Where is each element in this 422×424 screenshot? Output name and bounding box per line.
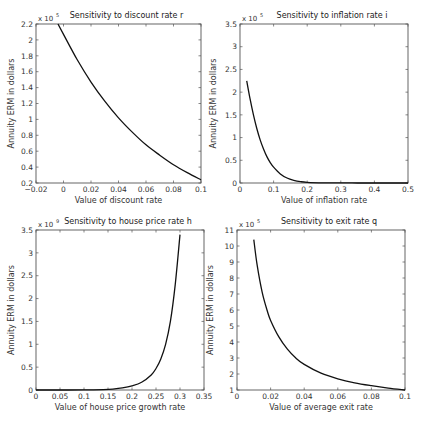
y-tick-label: 6: [229, 306, 234, 315]
x-tick-label: 0.1: [195, 185, 207, 194]
y-tick-label: 0.4: [21, 163, 33, 172]
y-tick-label: 0.8: [21, 131, 33, 140]
plot-title: Sensitivity to discount rate r: [70, 11, 184, 20]
plot-exit-rate: 00.020.040.060.080.11234567891011x 105Se…: [206, 217, 411, 412]
x-tick-label: 0.1: [268, 185, 280, 194]
y-tick-label: 0: [232, 179, 237, 188]
plot-frame: [237, 230, 405, 390]
y-tick-label: 5: [229, 322, 234, 331]
x-tick-label: 0.4: [368, 185, 380, 194]
x-tick-label: 0.04: [296, 392, 313, 401]
y-tick-label: 8: [229, 274, 234, 283]
data-curve: [247, 81, 408, 183]
x-tick-label: 0.25: [148, 392, 165, 401]
y-tick-label: 3: [229, 354, 234, 363]
sensitivity-figure: −0.0200.020.040.060.080.10.20.40.60.811.…: [0, 0, 422, 424]
plot-frame: [240, 24, 408, 183]
plot-frame: [36, 24, 201, 183]
y-exponent-label: x 10: [38, 221, 53, 229]
data-curve: [254, 240, 405, 390]
x-axis-label: Value of average exit rate: [269, 403, 373, 412]
x-tick-label: 0.5: [402, 185, 414, 194]
y-tick-label: 2: [28, 36, 33, 45]
y-tick-label: 1: [229, 386, 234, 395]
y-tick-label: 0.5: [21, 363, 33, 372]
y-tick-label: 3: [232, 42, 237, 51]
plot-title: Sensitivity to exit rate q: [281, 217, 377, 226]
y-tick-label: 0.5: [225, 156, 237, 165]
y-tick-label: 10: [224, 242, 234, 251]
x-axis-label: Value of discount rate: [75, 196, 163, 205]
y-tick-label: 1.6: [21, 67, 33, 76]
x-tick-label: 0: [61, 185, 66, 194]
y-tick-label: 2.5: [225, 65, 237, 74]
y-exponent-label: x 10: [239, 221, 254, 229]
y-tick-label: 1.5: [21, 317, 33, 326]
plot-title: Sensitivity to house price rate h: [64, 217, 192, 226]
y-axis-label: Annuity ERM in dollars: [209, 59, 218, 149]
x-tick-label: 0.04: [110, 185, 127, 194]
y-axis-label: Annuity ERM in dollars: [7, 59, 16, 149]
y-tick-label: 3.5: [225, 20, 237, 29]
y-tick-label: 9: [229, 258, 234, 267]
x-tick-label: 0.06: [138, 185, 155, 194]
plot-inflation-rate: 00.10.20.30.40.500.511.522.533.5x 105Sen…: [209, 11, 414, 205]
x-tick-label: 0.08: [165, 185, 182, 194]
y-axis-label: Annuity ERM in dollars: [7, 265, 16, 355]
x-tick-label: 0.35: [196, 392, 213, 401]
y-exponent-power: 5: [56, 12, 59, 18]
y-tick-label: 3.5: [21, 226, 33, 235]
y-tick-label: 1.5: [225, 111, 237, 120]
y-tick-label: 0: [28, 386, 33, 395]
y-tick-label: 1.2: [21, 99, 33, 108]
y-tick-label: 1.8: [21, 52, 33, 61]
y-tick-label: 2: [232, 88, 237, 97]
x-tick-label: 0.02: [262, 392, 279, 401]
y-tick-label: 7: [229, 290, 234, 299]
x-tick-label: 0.2: [301, 185, 313, 194]
x-axis-label: Value of inflation rate: [281, 196, 367, 205]
y-tick-label: 3: [28, 249, 33, 258]
y-tick-label: 2.2: [21, 20, 33, 29]
x-tick-label: 0.06: [329, 392, 346, 401]
y-exponent-label: x 10: [242, 15, 257, 23]
y-tick-label: 1: [28, 115, 33, 124]
x-tick-label: 0: [34, 392, 39, 401]
x-tick-label: 0.3: [335, 185, 347, 194]
x-tick-label: 0.1: [399, 392, 411, 401]
y-tick-label: 1.4: [21, 83, 33, 92]
x-axis-label: Value of house price growth rate: [55, 403, 186, 412]
y-tick-label: 1: [28, 340, 33, 349]
y-axis-label: Annuity ERM in dollars: [206, 265, 215, 355]
y-exponent-power: 9: [56, 218, 59, 224]
y-tick-label: 2: [28, 294, 33, 303]
data-curve: [58, 24, 201, 180]
y-tick-label: 2: [229, 370, 234, 379]
plot-discount-rate: −0.0200.020.040.060.080.10.20.40.60.811.…: [7, 11, 207, 205]
x-tick-label: 0.2: [126, 392, 138, 401]
x-tick-label: 0.15: [100, 392, 117, 401]
plot-house-price-rate: 00.050.10.150.20.250.30.3500.511.522.533…: [7, 217, 213, 412]
x-tick-label: 0.02: [83, 185, 100, 194]
y-exponent-label: x 10: [38, 15, 53, 23]
y-tick-label: 0.6: [21, 147, 33, 156]
y-tick-label: 0.2: [21, 179, 33, 188]
y-tick-label: 2.5: [21, 271, 33, 280]
y-exponent-power: 5: [260, 12, 263, 18]
x-tick-label: 0: [238, 185, 243, 194]
plot-title: Sensitivity to inflation rate i: [277, 11, 388, 20]
data-curve: [36, 235, 180, 390]
x-tick-label: 0.05: [52, 392, 69, 401]
y-tick-label: 4: [229, 338, 234, 347]
x-tick-label: 0.3: [174, 392, 186, 401]
x-tick-label: 0: [235, 392, 240, 401]
y-tick-label: 1: [232, 133, 237, 142]
x-tick-label: 0.1: [78, 392, 90, 401]
y-exponent-power: 5: [257, 218, 260, 224]
x-tick-label: 0.08: [363, 392, 380, 401]
y-tick-label: 11: [224, 226, 234, 235]
